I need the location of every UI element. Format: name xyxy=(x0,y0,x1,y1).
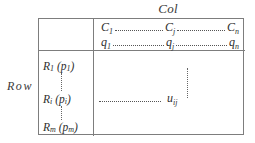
subscript: n xyxy=(235,42,239,51)
row-label-middle: Ri (pi) xyxy=(39,91,93,106)
column-header-q-first: q1 xyxy=(101,35,111,50)
col-axis-caption: Col xyxy=(92,0,244,17)
matrix-cell-uij-row: uij xyxy=(93,91,245,106)
vertical-ellipsis-lower xyxy=(61,106,62,120)
row-axis-caption: Row xyxy=(2,78,38,94)
row-label-first: R1 (p1) xyxy=(39,58,93,73)
subscript: j xyxy=(172,42,174,51)
header-body-divider xyxy=(39,50,245,51)
column-header-c-middle: Cj xyxy=(165,20,175,35)
subscript: 1 xyxy=(107,42,111,51)
leader-dots xyxy=(176,37,227,48)
leader-dots-horizontal xyxy=(99,93,161,104)
matrix-diagram: Col Row C1 Cj Cn q1 xyxy=(0,0,255,143)
matrix-cell-uij: uij xyxy=(167,91,177,106)
leader-dots-vertical xyxy=(187,68,188,98)
leader-dots xyxy=(177,22,225,33)
subscript: ij xyxy=(173,98,177,107)
row-caption-text: Row xyxy=(7,79,33,94)
column-header-c-first: C1 xyxy=(101,20,113,35)
column-header-c-last: Cn xyxy=(227,20,239,35)
vertical-ellipsis-upper xyxy=(61,73,62,91)
column-header-q-last: qn xyxy=(229,35,239,50)
column-header-q-middle: qj xyxy=(166,35,174,50)
column-header-row-q: q1 qj qn xyxy=(93,34,245,50)
row-label-last: Rm (pm) xyxy=(39,119,93,134)
column-header-row-c: C1 Cj Cn xyxy=(93,19,245,35)
leader-dots xyxy=(115,22,163,33)
leader-dots xyxy=(113,37,164,48)
matrix-table-frame: C1 Cj Cn q1 qj qn xyxy=(38,18,244,135)
col-caption-text: Col xyxy=(158,1,178,17)
